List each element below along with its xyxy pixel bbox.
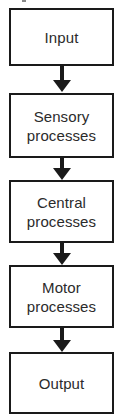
arrow-head-down-icon	[53, 340, 71, 352]
node-sensory-processes-label: Sensory processes	[24, 107, 99, 145]
node-output[interactable]: Output	[9, 352, 114, 414]
arrow-head-down-icon	[53, 80, 71, 92]
scan-artifact-mark	[22, 0, 26, 2]
arrow-input-to-sensory	[58, 66, 66, 93]
node-motor-processes[interactable]: Motor processes	[9, 265, 114, 328]
node-central-processes[interactable]: Central processes	[9, 180, 114, 243]
node-input[interactable]: Input	[9, 8, 114, 66]
arrow-motor-to-output	[58, 328, 66, 352]
arrow-stem	[60, 66, 64, 81]
arrow-sensory-to-central	[58, 158, 66, 180]
node-central-processes-label: Central processes	[24, 193, 99, 231]
flowchart-diagram: Input Sensory processes Central processe…	[0, 0, 128, 420]
arrow-head-down-icon	[53, 168, 71, 180]
node-motor-processes-label: Motor processes	[24, 278, 99, 316]
node-input-label: Input	[42, 28, 82, 47]
arrow-central-to-motor	[58, 243, 66, 265]
arrow-head-down-icon	[53, 253, 71, 265]
node-output-label: Output	[36, 374, 88, 393]
node-sensory-processes[interactable]: Sensory processes	[9, 93, 114, 158]
